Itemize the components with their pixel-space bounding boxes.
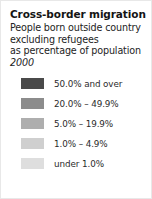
legend-subtitle-line-3: as percentage of population [10, 45, 145, 57]
legend-year-label: 2000 [10, 57, 145, 69]
list-item: under 1.0% [21, 154, 145, 174]
legend-item-label: 1.0% – 4.9% [54, 139, 108, 149]
list-item: 50.0% and over [21, 74, 145, 94]
legend-item-label: 20.0% – 49.9% [54, 99, 119, 109]
legend-item-label: 50.0% and over [54, 79, 122, 89]
legend-subtitle: People born outside country excluding re… [10, 22, 145, 57]
legend-item-label: under 1.0% [54, 159, 104, 169]
legend-swatch-icon [21, 138, 44, 149]
list-item: 1.0% – 4.9% [21, 134, 145, 154]
list-item: 20.0% – 49.9% [21, 94, 145, 114]
legend-entries-list: 50.0% and over 20.0% – 49.9% 5.0% – 19.9… [10, 74, 145, 174]
legend-swatch-icon [21, 118, 44, 129]
page-title: Cross-border migration [10, 8, 145, 21]
list-item: 5.0% – 19.9% [21, 114, 145, 134]
legend-content: Cross-border migration People born outsi… [1, 1, 151, 174]
legend-swatch-icon [21, 78, 44, 89]
legend-item-label: 5.0% – 19.9% [54, 119, 113, 129]
legend-subtitle-line-1: People born outside country [10, 22, 145, 34]
legend-subtitle-line-2: excluding refugees [10, 34, 145, 46]
map-legend-card: Cross-border migration People born outsi… [0, 0, 152, 199]
legend-swatch-icon [21, 98, 44, 109]
legend-swatch-icon [21, 158, 44, 169]
